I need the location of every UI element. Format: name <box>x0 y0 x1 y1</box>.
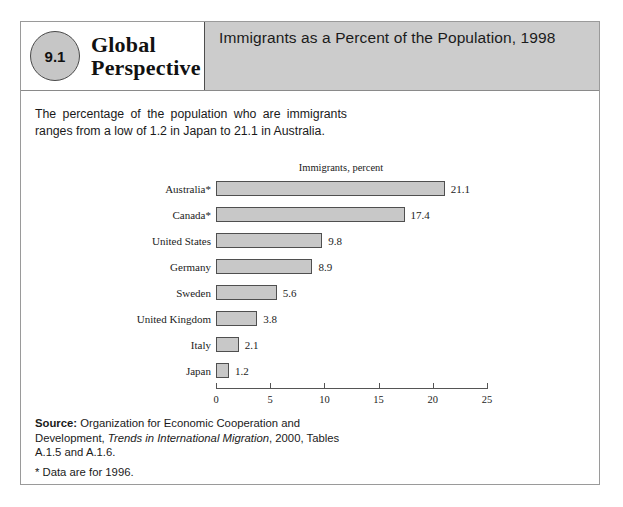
figure-frame: 9.1 Global Perspective Immigrants as a P… <box>20 21 600 485</box>
intro-paragraph: The percentage of the population who are… <box>35 106 347 139</box>
chart-bar <box>216 363 229 378</box>
chart-row: Japan1.2 <box>21 362 599 388</box>
chart-row: United States9.8 <box>21 232 599 258</box>
chart-bar-value: 8.9 <box>318 261 332 273</box>
chart-row: Canada*17.4 <box>21 206 599 232</box>
title-panel: Immigrants as a Percent of the Populatio… <box>204 22 599 90</box>
figure-header: 9.1 Global Perspective Immigrants as a P… <box>21 22 599 91</box>
chart-bar <box>216 207 405 222</box>
chart-bar <box>216 233 322 248</box>
chart-bar <box>216 311 257 326</box>
badge-zone: 9.1 Global Perspective <box>21 22 203 90</box>
chart-bar-value: 3.8 <box>263 313 277 325</box>
page-title: Immigrants as a Percent of the Populatio… <box>219 29 599 47</box>
chart-bar-value: 5.6 <box>283 287 297 299</box>
chart-category-label: Australia* <box>21 183 211 195</box>
chart-category-label: Canada* <box>21 209 211 221</box>
chart-category-label: Italy <box>21 339 211 351</box>
source-label: Source: <box>35 417 77 429</box>
axis-tick-label: 5 <box>268 394 273 405</box>
chart-bar <box>216 285 277 300</box>
axis-tick-label: 20 <box>428 394 439 405</box>
chart-axis-title: Immigrants, percent <box>261 162 421 173</box>
chart-row: United Kingdom3.8 <box>21 310 599 336</box>
footnote: * Data are for 1996. <box>35 466 134 478</box>
chart-bar <box>216 259 312 274</box>
chart-category-label: Sweden <box>21 287 211 299</box>
chart-category-label: United States <box>21 235 211 247</box>
chart-row: Italy2.1 <box>21 336 599 362</box>
chart-bar-value: 21.1 <box>451 183 470 195</box>
axis-tick <box>324 383 325 389</box>
axis-tick <box>433 383 434 389</box>
axis-tick <box>379 383 380 389</box>
chart-rows: Australia*21.1Canada*17.4United States9.… <box>21 180 599 388</box>
axis-tick-label: 25 <box>482 394 493 405</box>
axis-tick-label: 15 <box>373 394 384 405</box>
axis-tick <box>487 383 488 389</box>
bar-chart: Immigrants, percent Australia*21.1Canada… <box>21 162 599 402</box>
axis-tick-label: 10 <box>319 394 330 405</box>
axis-tick <box>270 383 271 389</box>
axis-tick-label: 0 <box>213 394 218 405</box>
chart-row: Germany8.9 <box>21 258 599 284</box>
source-title-italic: Trends in International Migration <box>108 432 269 444</box>
series-title-line2: Perspective <box>91 56 201 79</box>
series-title-line1: Global <box>91 33 201 56</box>
source-note: Source: Organization for Economic Cooper… <box>35 416 365 460</box>
chart-category-label: Germany <box>21 261 211 273</box>
figure-number-badge: 9.1 <box>30 31 80 81</box>
axis-tick <box>216 383 217 389</box>
chart-bar-value: 9.8 <box>328 235 342 247</box>
chart-bar-value: 1.2 <box>235 365 249 377</box>
chart-bar-value: 17.4 <box>411 209 430 221</box>
chart-row: Australia*21.1 <box>21 180 599 206</box>
chart-bar <box>216 181 445 196</box>
chart-row: Sweden5.6 <box>21 284 599 310</box>
chart-bar-value: 2.1 <box>245 339 259 351</box>
chart-category-label: United Kingdom <box>21 313 211 325</box>
chart-category-label: Japan <box>21 365 211 377</box>
series-title: Global Perspective <box>91 33 201 79</box>
chart-bar <box>216 337 239 352</box>
axis-line <box>216 388 487 389</box>
